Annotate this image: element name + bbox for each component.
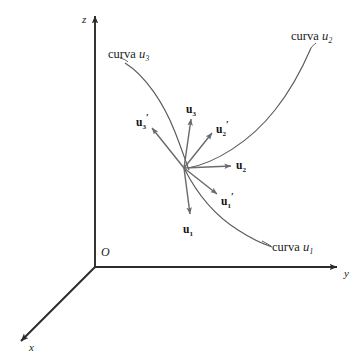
x-axis xyxy=(21,267,95,341)
leader-u2 xyxy=(311,43,316,48)
z-axis-label: z xyxy=(82,14,86,25)
vector-u1-prime xyxy=(184,168,217,194)
curve-u2-caption: curva u2 xyxy=(291,30,332,43)
vector-u3-prime xyxy=(152,128,184,168)
vector-label-u3-prime: u3′ xyxy=(136,117,149,129)
vector-label-u2-prime: u2′ xyxy=(216,124,229,136)
curve-u2-path xyxy=(188,48,311,168)
vector-label-u2: u2 xyxy=(236,160,246,172)
vector-label-u1: u1 xyxy=(183,224,193,236)
axes-group xyxy=(21,16,337,341)
vector-u2 xyxy=(184,166,231,168)
origin-label: O xyxy=(101,246,110,258)
caption-leaders xyxy=(120,43,316,246)
y-axis-label: y xyxy=(344,268,349,279)
vector-label-u3: u3 xyxy=(186,104,196,116)
curvilinear-coordinates-figure: z y x O curva u3 curva u2 curva u1 u1u2u… xyxy=(0,0,360,364)
curve-u3-path xyxy=(125,63,189,170)
vector-label-u1-prime: u1′ xyxy=(221,196,234,208)
curve-u1-caption: curva u1 xyxy=(272,241,313,254)
curve-u3-caption: curva u3 xyxy=(108,48,149,61)
curves-group xyxy=(125,48,311,247)
x-axis-label: x xyxy=(29,342,34,353)
diagram-canvas xyxy=(0,0,360,364)
